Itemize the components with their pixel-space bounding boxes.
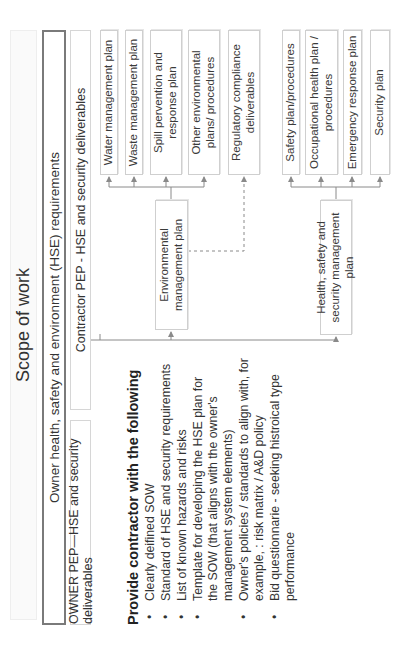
list-heading: Provide contractor with the following — [126, 357, 141, 625]
list-item: Clearly deifined SOW — [143, 357, 158, 611]
security-plan: Security plan — [370, 30, 390, 175]
item-label: Other environmental plans/ procedures — [190, 34, 218, 171]
environmental-management-plan: Environmental management plan — [155, 200, 188, 330]
waste-management-plan: Waste management plan — [125, 30, 143, 175]
list-item: Template for developing the HSE plan for… — [191, 357, 236, 611]
other-environmental-plans: Other environmental plans/ procedures — [188, 30, 220, 175]
environmental-plan-label: Environmental management plan — [158, 204, 186, 326]
item-label: Occupational health plan / procedures — [308, 34, 336, 171]
diagram-canvas: Scope of work Owner health, safety and e… — [0, 0, 402, 669]
list-item: Owner's policies / standards to align wi… — [237, 357, 267, 611]
regulatory-compliance-deliverables: Regulatory compliance deliverables — [228, 30, 260, 175]
spill-prevention-plan: Spill pervention and response plan — [150, 30, 182, 175]
occupational-health-plan: Occupational health plan / procedures — [305, 30, 338, 175]
list-item: Standard of HSE and security requirement… — [159, 357, 174, 611]
safety-plan: Safety plan/procedures — [282, 30, 300, 175]
emergency-response-plan: Emergency response plan — [343, 30, 362, 175]
water-management-plan: Water management plan — [100, 30, 118, 175]
item-label: Emergency response plan — [346, 36, 360, 170]
contractor-requirements-list: Provide contractor with the following Cl… — [126, 357, 299, 625]
hss-plan-label: Health, safety and security management p… — [315, 204, 356, 331]
regulatory-label: Regulatory compliance deliverables — [230, 34, 258, 171]
list-item: List of known hazards and risks — [175, 357, 190, 611]
item-label: Safety plan/procedures — [284, 43, 298, 161]
item-label: Security plan — [373, 69, 387, 135]
hss-management-plan: Health, safety and security management p… — [320, 200, 352, 335]
item-label: Waste management plan — [127, 39, 141, 166]
list-item: Bid questionnarie - seeking histroical t… — [268, 357, 298, 611]
item-label: Spill pervention and response plan — [152, 34, 180, 171]
item-label: Water management plan — [102, 40, 116, 166]
